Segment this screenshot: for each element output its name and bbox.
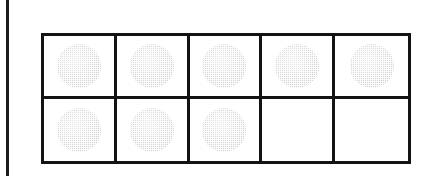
counter-disc-r1c4 <box>275 44 319 88</box>
ten-frame-cell-r1c1[interactable] <box>44 36 117 99</box>
page-margin-rule <box>6 0 9 176</box>
counter-disc-r1c5 <box>350 44 394 88</box>
counter-disc-r1c2 <box>130 44 174 88</box>
ten-frame-cell-r1c2[interactable] <box>117 36 190 99</box>
counter-disc-r2c1 <box>57 108 101 152</box>
ten-frame-cell-r2c2[interactable] <box>117 99 190 162</box>
ten-frame-cell-r2c3[interactable] <box>190 99 263 162</box>
counter-disc-r2c3 <box>202 108 246 152</box>
ten-frame-grid <box>41 33 411 164</box>
counter-disc-r2c2 <box>130 108 174 152</box>
ten-frame-cell-r2c5[interactable] <box>335 99 408 162</box>
ten-frame-cell-r1c4[interactable] <box>262 36 335 99</box>
ten-frame-cell-r2c1[interactable] <box>44 99 117 162</box>
ten-frame-cell-r2c4[interactable] <box>262 99 335 162</box>
counter-disc-r1c3 <box>202 44 246 88</box>
ten-frame-cell-r1c5[interactable] <box>335 36 408 99</box>
counter-disc-r1c1 <box>57 44 101 88</box>
ten-frame-cell-r1c3[interactable] <box>190 36 263 99</box>
